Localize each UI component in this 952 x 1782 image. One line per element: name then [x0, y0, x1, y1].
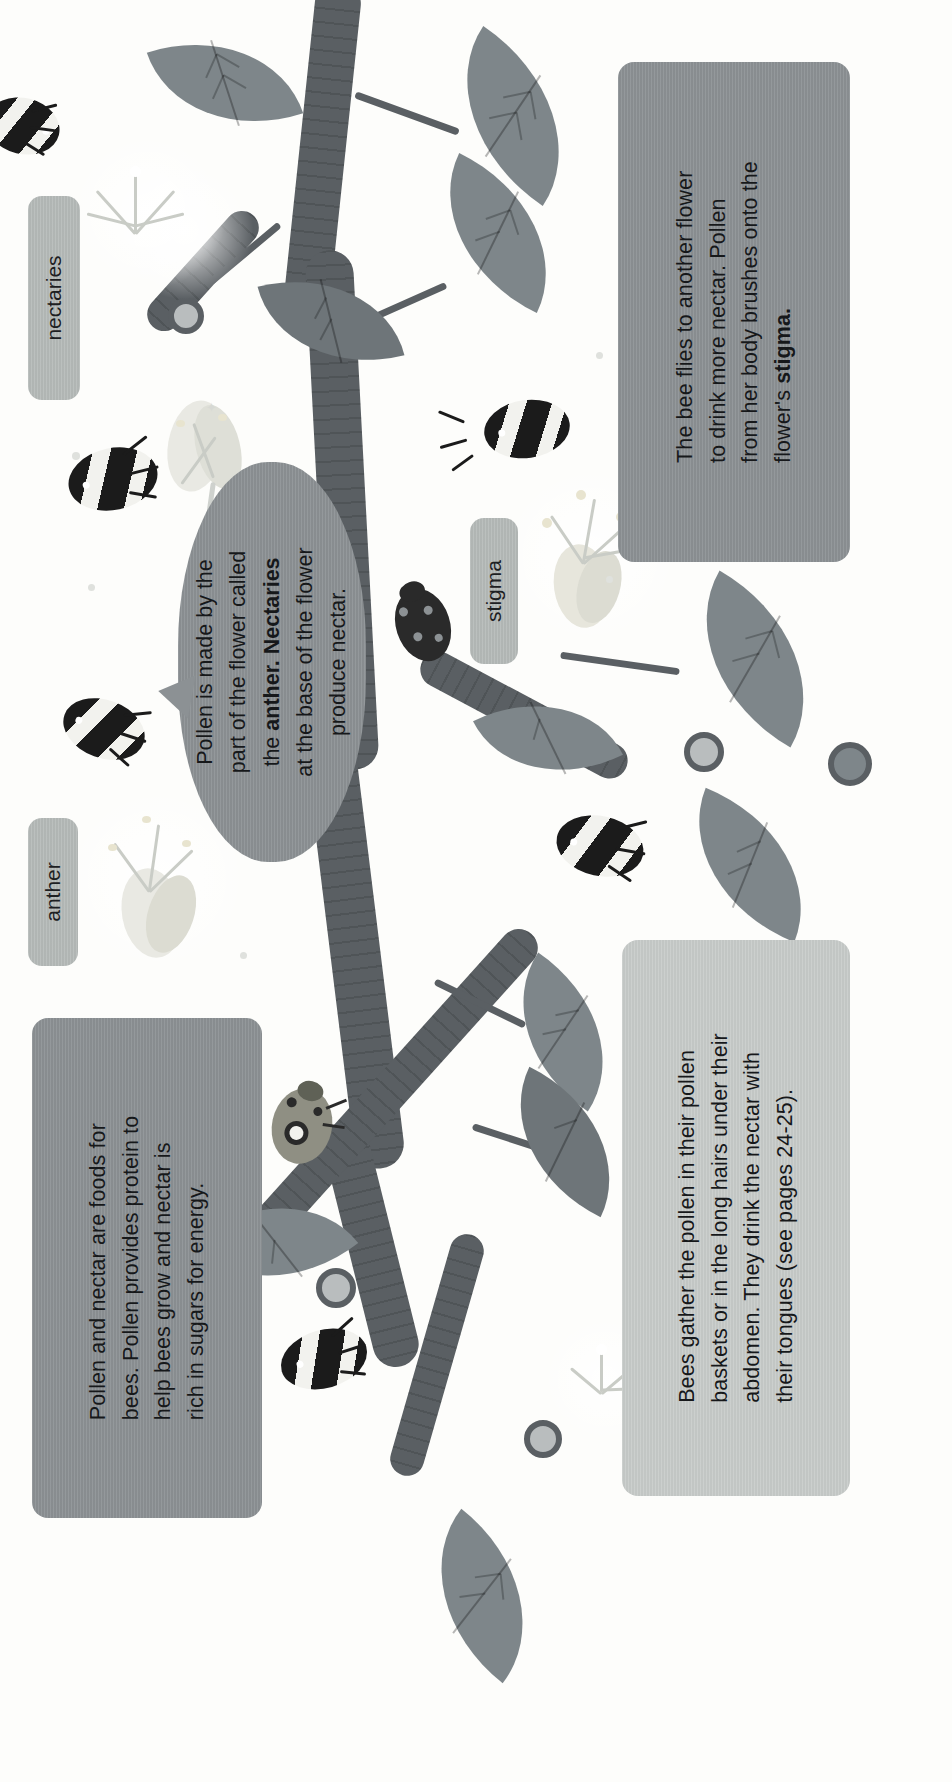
bee-icon [55, 687, 154, 770]
bee-flies-line-3: from her body brushes onto the [734, 161, 767, 463]
bee-icon [274, 1319, 375, 1399]
stigma-tag-label: stigma [482, 560, 506, 622]
bubble-line-3: the anther. Nectaries [255, 547, 288, 776]
stem-node-icon [316, 1268, 356, 1308]
bee-icon [551, 808, 650, 885]
nectaries-tag: nectaries [28, 196, 80, 400]
stem-node-icon [524, 1420, 562, 1458]
bubble-line-3-bold: anther. Nectaries [259, 557, 283, 730]
leaf-icon [392, 1509, 571, 1683]
bubble-line-1: Pollen is made by the [189, 547, 222, 776]
pollen-foods-line-2: bees. Pollen provides protein to [114, 1116, 147, 1420]
bee-flies-line-2: to drink more nectar. Pollen [701, 161, 734, 463]
sparkle-icon: ✦ [206, 400, 217, 415]
pollen-dot-icon [606, 576, 613, 583]
bee-icon [63, 439, 164, 518]
bubble-line-5: produce nectar. [322, 547, 355, 776]
bee-flies-line-1: The bee flies to another flower [669, 161, 702, 463]
pollen-nectar-foods-panel: Pollen and nectar are foods for bees. Po… [32, 1018, 262, 1518]
bees-gather-line-1: Bees gather the pollen in their pollen [671, 1033, 704, 1403]
pollen-foods-line-4: rich in sugars for energy. [180, 1116, 213, 1420]
anther-tag: anther [28, 818, 78, 966]
twig-icon [354, 91, 460, 135]
pollen-made-bubble: Pollen is made by the part of the flower… [178, 462, 366, 862]
flower-icon [78, 150, 198, 280]
stigma-tag: stigma [470, 518, 518, 664]
flower-icon [78, 800, 218, 970]
bees-gather-line-3: abdomen. They drink the nectar with [736, 1033, 769, 1403]
bee-icon [480, 394, 573, 463]
illustrated-page: ✦ ✦ ✦ [0, 0, 952, 1782]
bees-gather-panel: Bees gather the pollen in their pollen b… [622, 940, 850, 1496]
pollen-dot-icon [240, 952, 247, 959]
stem-node-icon [168, 298, 204, 334]
bee-icon [0, 90, 66, 162]
nectaries-tag-label: nectaries [42, 255, 66, 340]
bee-flies-line-4-prefix: flower's [771, 384, 795, 463]
bubble-line-2: part of the flower called [222, 547, 255, 776]
pollen-dot-icon [596, 352, 603, 359]
bee-flies-line-4-bold: stigma. [771, 308, 795, 384]
pollen-dot-icon [88, 584, 95, 591]
leaf-icon [661, 570, 850, 747]
bees-gather-line-2: baskets or in the long hairs under their [703, 1033, 736, 1403]
pollen-foods-line-1: Pollen and nectar are foods for [82, 1116, 115, 1420]
pollen-foods-line-3: help bees grow and nectar is [147, 1116, 180, 1420]
stem-node-icon [684, 732, 724, 772]
anther-tag-label: anther [41, 862, 65, 922]
bee-flies-line-4: flower's stigma. [767, 161, 800, 463]
stem-node-icon [828, 742, 872, 786]
leaf-icon [418, 26, 607, 206]
bees-gather-line-4: their tongues (see pages 24-25). [769, 1033, 802, 1403]
leaf-icon [664, 788, 835, 942]
bee-flies-panel: The bee flies to another flower to drink… [618, 62, 850, 562]
twig-icon [560, 652, 680, 676]
bubble-line-3-prefix: the [259, 731, 283, 767]
bubble-line-4: at the base of the flower [289, 547, 322, 776]
